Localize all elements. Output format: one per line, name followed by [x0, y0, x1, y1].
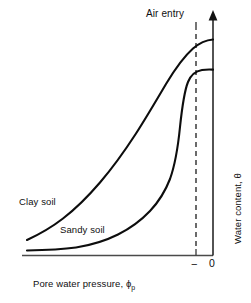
x-tick-label-negative: − — [191, 258, 198, 270]
x-axis-title-base: Pore water pressure, ϕ — [33, 278, 131, 289]
y-axis-title: Water content, θ — [232, 173, 243, 244]
sandy-soil-label: Sandy soil — [60, 224, 105, 235]
x-tick-label-zero: 0 — [209, 257, 215, 269]
y-axis-arrow-icon — [209, 10, 218, 21]
curve-clay-soil — [27, 40, 213, 241]
y-axis-title-symbol: θ — [232, 173, 243, 178]
x-axis-title-subscript: p — [131, 284, 135, 291]
x-axis-title: Pore water pressure, ϕp — [33, 278, 135, 291]
clay-soil-label: Clay soil — [19, 196, 56, 207]
y-axis-title-base: Water content, — [232, 178, 243, 244]
soil-water-retention-figure: Air entry Clay soil Sandy soil − 0 Pore … — [0, 0, 251, 303]
air-entry-label: Air entry — [146, 8, 184, 19]
